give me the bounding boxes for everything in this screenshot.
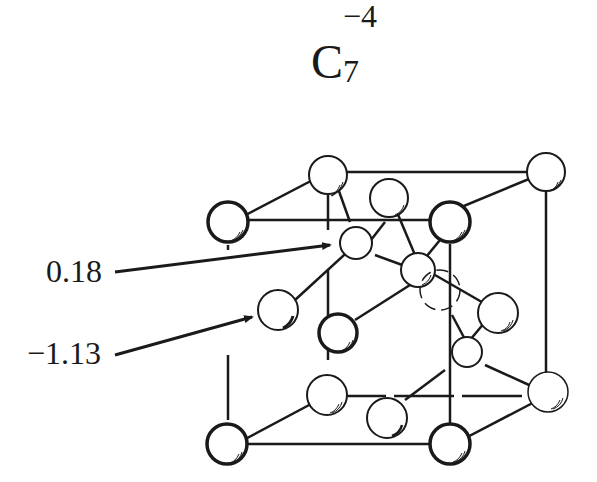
atom-bottom-back-right xyxy=(528,372,568,412)
atom-top-front-right xyxy=(430,202,470,242)
atom-interior-center xyxy=(401,253,435,287)
crystal-lattice-diagram xyxy=(0,0,597,482)
atom-bottom-face-center xyxy=(367,398,407,438)
atoms xyxy=(207,153,568,464)
atom-bottom-back-left xyxy=(307,375,347,415)
atom-top-back-right xyxy=(527,153,565,191)
atom-interior-lower xyxy=(452,337,482,367)
atom-interior-left-labeled xyxy=(258,290,298,330)
atom-interior-right xyxy=(478,293,518,333)
arrow-0-18 xyxy=(115,245,330,272)
atom-face-front-center xyxy=(319,314,357,352)
atom-bottom-front-right xyxy=(430,424,470,464)
atom-interior-upper-labeled xyxy=(340,227,372,259)
atom-top-front-left xyxy=(208,202,248,242)
atom-interior-top xyxy=(370,179,408,217)
atom-top-back-left xyxy=(309,156,347,194)
arrow-minus-1-13 xyxy=(115,317,252,355)
atom-bottom-front-left xyxy=(207,424,247,464)
atom-interior-hidden xyxy=(420,270,460,310)
